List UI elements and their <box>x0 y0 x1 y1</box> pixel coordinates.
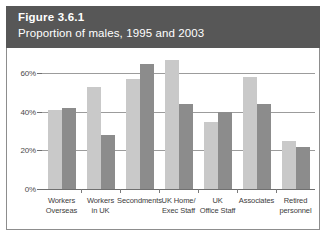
bar-1995 <box>126 79 140 189</box>
x-axis-labels: WorkersOverseasWorkersin UKSecondmentsUK… <box>42 192 315 226</box>
y-axis-tick-label: 20% <box>21 146 36 155</box>
x-axis-tick-label: Retiredpersonnel <box>272 196 319 215</box>
y-axis-tick-label: 0% <box>25 185 36 194</box>
y-axis-tick-label: 40% <box>21 107 36 116</box>
figure-subtitle: Proportion of males, 1995 and 2003 <box>18 25 320 41</box>
plot-region <box>42 48 315 189</box>
bar-2003 <box>140 64 154 189</box>
bar-1995 <box>204 122 218 190</box>
y-axis-labels: 0%20%40%60% <box>7 48 39 228</box>
figure-root: Figure 3.6.1 Proportion of males, 1995 a… <box>0 0 326 234</box>
bar-group <box>159 48 198 189</box>
bar-1995 <box>165 60 179 189</box>
bar-1995 <box>87 87 101 189</box>
bar-1995 <box>282 141 296 189</box>
bar-1995 <box>48 110 62 189</box>
bar-2003 <box>296 147 310 189</box>
figure-title-band: Figure 3.6.1 Proportion of males, 1995 a… <box>6 6 320 48</box>
bar-2003 <box>101 135 115 189</box>
bar-1995 <box>243 77 257 189</box>
bar-2003 <box>179 104 193 189</box>
figure-number: Figure 3.6.1 <box>18 10 320 25</box>
y-axis-tick-label: 60% <box>21 69 36 78</box>
chart-area: 0%20%40%60% WorkersOverseasWorkersin UKS… <box>7 48 319 228</box>
chart-panel: 0%20%40%60% WorkersOverseasWorkersin UKS… <box>6 48 320 230</box>
x-axis-line <box>41 189 315 190</box>
bar-group <box>198 48 237 189</box>
bar-2003 <box>62 108 76 189</box>
bar-group <box>237 48 276 189</box>
bar-group <box>120 48 159 189</box>
bar-2003 <box>257 104 271 189</box>
bar-group <box>276 48 315 189</box>
figure-card: Figure 3.6.1 Proportion of males, 1995 a… <box>6 6 320 230</box>
bar-group <box>42 48 81 189</box>
bar-2003 <box>218 112 232 189</box>
bar-group <box>81 48 120 189</box>
